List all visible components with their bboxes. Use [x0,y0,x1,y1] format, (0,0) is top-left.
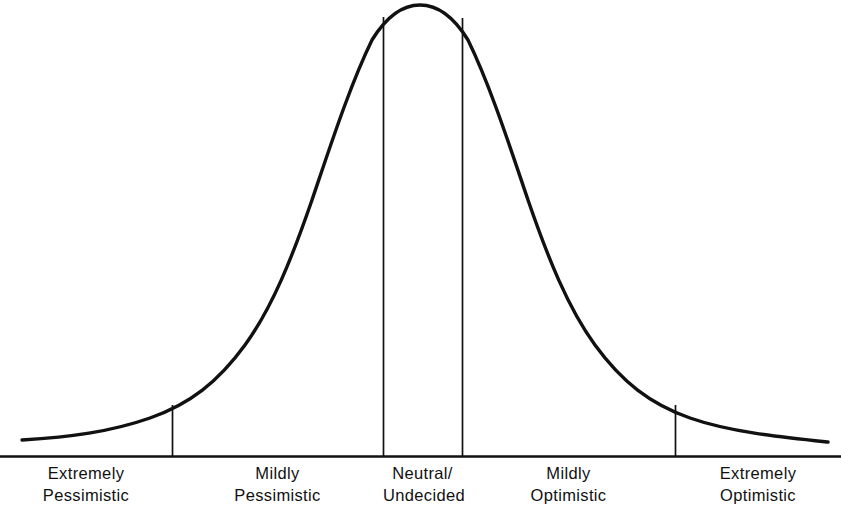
bell-curve-figure: Extremely Pessimistic Mildly Pessimistic… [0,0,841,510]
normal-distribution-curve [22,5,828,442]
segment-label-line1: Neutral/ [383,462,462,484]
segment-label-row: Extremely Pessimistic Mildly Pessimistic… [0,462,841,510]
segment-label-line2: Pessimistic [172,484,383,506]
segment-label-line2: Optimistic [675,484,841,506]
segment-label-mildly-pessimistic: Mildly Pessimistic [172,462,383,506]
segment-label-neutral-undecided: Neutral/ Undecided [383,462,462,506]
segment-label-line1: Mildly [172,462,383,484]
segment-label-line2: Pessimistic [0,484,172,506]
segment-label-line1: Extremely [675,462,841,484]
segment-label-line2: Undecided [383,484,462,506]
segment-label-line2: Optimistic [462,484,675,506]
bell-curve-svg [0,0,841,510]
segment-label-extremely-pessimistic: Extremely Pessimistic [0,462,172,506]
segment-label-line1: Mildly [462,462,675,484]
segment-label-mildly-optimistic: Mildly Optimistic [462,462,675,506]
segment-label-extremely-optimistic: Extremely Optimistic [675,462,841,506]
segment-label-line1: Extremely [0,462,172,484]
